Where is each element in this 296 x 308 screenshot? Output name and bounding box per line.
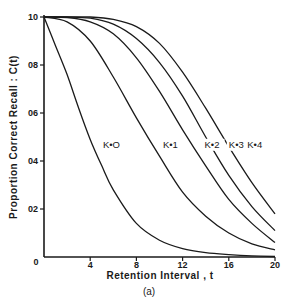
- curve-label-k1: K•1: [163, 139, 178, 150]
- x-tick-label: 16: [224, 260, 234, 270]
- x-tick-label: 20: [270, 260, 280, 270]
- x-tick-label: 4: [88, 260, 93, 270]
- curve-k1: [44, 17, 275, 250]
- curve-k4: [44, 17, 275, 214]
- curve-label-k0: K•O: [103, 139, 120, 150]
- curve-label-k3: K•3: [229, 139, 244, 150]
- curve-label-k4: K•4: [247, 139, 262, 150]
- curve-label-k2: K•2: [205, 139, 220, 150]
- y-tick-label: 10: [28, 12, 38, 22]
- x-axis-label: Retention Interval , t: [106, 270, 213, 281]
- y-tick-label: 0: [33, 257, 38, 267]
- y-tick-label: 06: [28, 108, 38, 118]
- recall-chart: 0020406081048121620 K•OK•1K•2K•3K•4 Rete…: [0, 0, 296, 308]
- x-tick-label: 8: [134, 260, 139, 270]
- y-tick-label: 08: [28, 60, 38, 70]
- curves: [44, 17, 275, 257]
- figure-caption: (a): [143, 286, 155, 297]
- curve-k0: [44, 17, 275, 257]
- y-tick-label: 04: [28, 156, 38, 166]
- x-tick-label: 12: [178, 260, 188, 270]
- curve-k3: [44, 17, 275, 231]
- curve-labels: K•OK•1K•2K•3K•4: [101, 139, 267, 151]
- curve-k2: [44, 17, 275, 243]
- y-tick-label: 02: [28, 204, 38, 214]
- y-axis-label: Proportion Correct Recall : C(t): [8, 55, 19, 219]
